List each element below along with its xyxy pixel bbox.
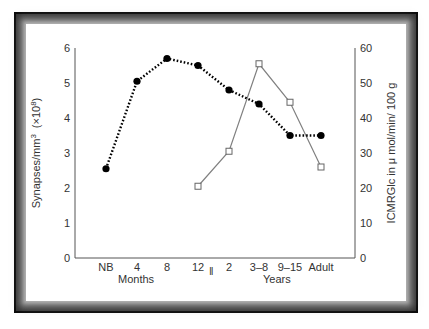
x-tick-label: 4 <box>134 261 140 273</box>
right-tick-label: 30 <box>360 147 372 159</box>
circle-marker <box>225 86 232 93</box>
axis-break-marker: ‖ <box>209 265 214 277</box>
right-tick-label: 20 <box>360 182 372 194</box>
series-synapses <box>102 55 324 172</box>
icmrglc-line <box>198 64 321 187</box>
square-marker <box>318 164 324 170</box>
right-tick-label: 40 <box>360 112 372 124</box>
right-y-tick-labels: 0102030405060 <box>360 42 372 264</box>
circle-marker <box>102 165 109 172</box>
x-tick-label: NB <box>98 261 113 273</box>
x-tick-label: 8 <box>164 261 170 273</box>
circle-marker <box>194 62 201 69</box>
right-tick-label: 60 <box>360 42 372 54</box>
left-tick-label: 3 <box>64 147 70 159</box>
circle-marker <box>317 132 324 139</box>
x-tick-label: 12 <box>192 261 204 273</box>
left-tick-label: 6 <box>64 42 70 54</box>
left-y-tick-labels: 0123456 <box>64 42 70 264</box>
x-tick-label: Adult <box>308 261 333 273</box>
synapses-line <box>106 59 321 169</box>
left-tick-label: 4 <box>64 112 70 124</box>
right-tick-label: 0 <box>360 252 366 264</box>
x-tick-label: 2 <box>226 261 232 273</box>
left-y-axis-title: Synapses/mm3(×108) <box>29 98 42 209</box>
x-tick-labels: NB481223–89–15Adult <box>98 261 333 273</box>
circle-marker <box>163 55 170 62</box>
square-marker <box>287 99 293 105</box>
x-tick-label: 3–8 <box>250 261 268 273</box>
months-group-label: Months <box>118 273 155 285</box>
left-tick-label: 2 <box>64 182 70 194</box>
circle-marker <box>255 100 262 107</box>
circle-marker <box>133 78 140 85</box>
right-tick-label: 50 <box>360 77 372 89</box>
square-marker <box>226 148 232 154</box>
square-marker <box>195 183 201 189</box>
left-tick-label: 1 <box>64 217 70 229</box>
years-group-label: Years <box>263 273 291 285</box>
chart: 0123456 0102030405060 NB481223–89–15Adul… <box>0 0 429 329</box>
series-icmrglc <box>195 61 324 190</box>
square-marker <box>256 61 262 67</box>
right-tick-label: 10 <box>360 217 372 229</box>
left-tick-label: 5 <box>64 77 70 89</box>
left-tick-label: 0 <box>64 252 70 264</box>
circle-marker <box>286 132 293 139</box>
x-tick-label: 9–15 <box>278 261 302 273</box>
right-y-axis-title: ICMRGlc in μ mol/min/ 100 g <box>385 83 397 224</box>
